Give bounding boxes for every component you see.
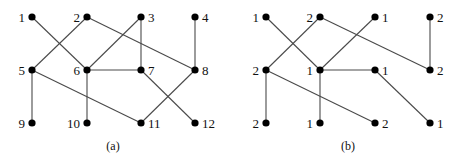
node-label: 12	[202, 116, 215, 131]
node-label: 3	[148, 10, 155, 25]
node-label: 2	[253, 116, 260, 131]
graph-node	[28, 119, 35, 126]
graph-edge	[320, 17, 430, 70]
graph-node	[262, 119, 269, 126]
graph-node	[262, 13, 269, 20]
graph-node	[262, 66, 269, 73]
node-label: 2	[253, 63, 260, 78]
node-label: 11	[148, 116, 161, 131]
node-label: 6	[74, 63, 81, 78]
graph-node	[426, 66, 433, 73]
node-label: 2	[437, 63, 444, 78]
node-label: 1	[382, 63, 389, 78]
node-label: 1	[307, 116, 314, 131]
node-label: 8	[202, 63, 209, 78]
graph-node	[191, 119, 198, 126]
node-label: 1	[253, 10, 260, 25]
node-label: 2	[74, 10, 81, 25]
graph-node	[426, 119, 433, 126]
graph-figure: 123456789101112 121221122121 (a) (b)	[0, 0, 464, 160]
graph-node	[371, 119, 378, 126]
node-label: 4	[202, 10, 209, 25]
node-label: 2	[437, 10, 444, 25]
graph-node	[28, 66, 35, 73]
graph-node	[137, 66, 144, 73]
graph-node	[137, 13, 144, 20]
graph-edge	[87, 17, 141, 70]
graph-panel-b: 121221122121	[253, 10, 444, 131]
graph-node	[28, 13, 35, 20]
graph-node	[316, 119, 323, 126]
node-label: 1	[382, 10, 389, 25]
graph-node	[371, 66, 378, 73]
node-label: 9	[19, 116, 26, 131]
graph-node	[371, 13, 378, 20]
node-label: 7	[148, 63, 155, 78]
graph-node	[137, 119, 144, 126]
node-label: 5	[19, 63, 26, 78]
graph-panel-a: 123456789101112	[19, 10, 216, 131]
graph-node	[426, 13, 433, 20]
caption-a: (a)	[106, 139, 119, 153]
graph-edge	[320, 17, 375, 70]
node-label: 1	[307, 63, 314, 78]
node-label: 2	[382, 116, 389, 131]
caption-b: (b)	[341, 139, 355, 153]
graph-node	[191, 13, 198, 20]
graph-node	[83, 66, 90, 73]
graph-node	[316, 66, 323, 73]
node-label: 1	[437, 116, 444, 131]
graph-node	[83, 119, 90, 126]
node-label: 2	[307, 10, 314, 25]
node-label: 10	[67, 116, 80, 131]
graph-node	[83, 13, 90, 20]
graph-node	[191, 66, 198, 73]
node-label: 1	[19, 10, 26, 25]
graph-node	[316, 13, 323, 20]
